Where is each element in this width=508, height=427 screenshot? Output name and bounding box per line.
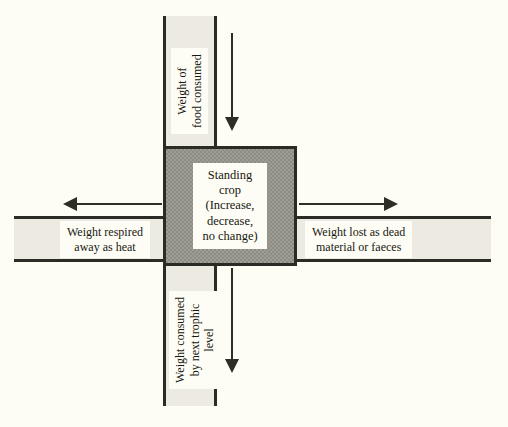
label-weight-consumed-by-next-trophic-level: Weight consumed by next trophic level [169,291,221,389]
arrow-down-top-head-icon [225,117,239,131]
arrow-down-top-shaft [231,33,233,119]
arrow-left-shaft [75,203,162,205]
label-weight-lost-as-dead-material-or-faeces: Weight lost as dead material or faeces [305,221,412,258]
standing-crop-box: Standing crop (Increase, decrease, no ch… [163,146,297,266]
label-weight-of-food-consumed: Weight of food consumed [171,48,208,134]
arrow-down-bottom-shaft [231,268,233,361]
arrow-right-shaft [299,203,386,205]
energy-flow-diagram: Standing crop (Increase, decrease, no ch… [0,0,508,427]
arrow-left-head-icon [63,197,77,211]
standing-crop-label: Standing crop (Increase, decrease, no ch… [193,163,266,249]
arrow-right-head-icon [384,197,398,211]
label-weight-respired-away-as-heat: Weight respired away as heat [60,221,150,258]
arrow-down-bottom-head-icon [225,359,239,373]
